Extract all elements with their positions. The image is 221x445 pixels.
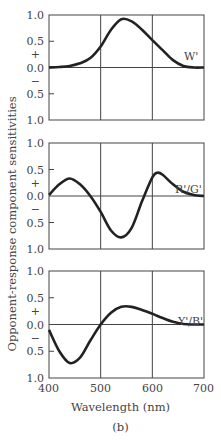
series-line: [49, 19, 204, 68]
figure-caption: (b): [0, 420, 221, 434]
x-tick-700: 700: [193, 382, 214, 395]
series-label: R'/G': [175, 183, 202, 196]
x-tick-600: 600: [142, 382, 163, 395]
svg-text:+: +: [31, 177, 40, 190]
svg-text:−: −: [31, 75, 40, 88]
svg-text:+: +: [31, 48, 40, 61]
x-tick-400: 400: [38, 382, 59, 395]
svg-text:1.0: 1.0: [27, 137, 45, 150]
svg-text:−: −: [31, 203, 40, 216]
x-tick-500: 500: [90, 382, 111, 395]
series-label: Y'/B': [177, 315, 203, 328]
series-label: W': [184, 50, 198, 63]
svg-text:0.0: 0.0: [27, 190, 45, 203]
chart-area: 1.00.5+0.0−0.51.0W'1.00.5+0.0−0.51.0R'/G…: [0, 0, 221, 445]
svg-text:0.5: 0.5: [27, 345, 45, 358]
svg-text:0.5: 0.5: [27, 88, 45, 101]
svg-text:0.5: 0.5: [27, 217, 45, 230]
svg-text:0.0: 0.0: [27, 62, 45, 75]
svg-text:1.0: 1.0: [27, 265, 45, 278]
svg-text:0.5: 0.5: [27, 292, 45, 305]
x-axis-label: Wavelength (nm): [0, 400, 221, 414]
svg-text:0.5: 0.5: [27, 164, 45, 177]
svg-text:−: −: [31, 332, 40, 345]
svg-text:1.0: 1.0: [27, 243, 45, 256]
svg-text:0.5: 0.5: [27, 35, 45, 48]
svg-text:1.0: 1.0: [27, 9, 45, 22]
svg-text:+: +: [31, 305, 40, 318]
svg-text:0.0: 0.0: [27, 319, 45, 332]
svg-text:1.0: 1.0: [27, 114, 45, 127]
